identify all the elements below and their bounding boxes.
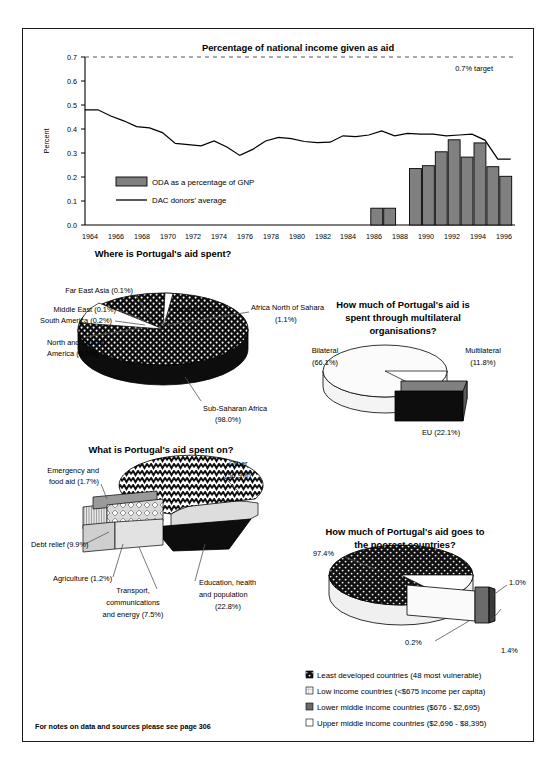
pie4-label-974: 97.4% [313,549,334,558]
pie3-label-other-1: Other [229,459,248,468]
pie2-title-line3: organisations? [369,325,436,336]
x-tick-1980: 1980 [289,232,305,241]
pie3-label-other-2: (56.9%) [225,471,251,480]
pie-poorest-countries: How much of Portugal's aid goes to the p… [313,526,526,655]
y-tick-marks [81,57,85,225]
legend-label-low-income: Low income countries (<$675 income per c… [317,687,486,696]
y-tick-0.2: 0.2 [67,173,77,182]
pie1-label-subsaharan-1: Sub-Saharan Africa [203,404,268,413]
line-chart-title: Percentage of national income given as a… [202,42,395,53]
bar-1996 [500,176,512,225]
pie4-graphic [329,545,495,625]
pie1-label-far-east: Far East Asia (0.1%) [65,286,133,295]
pie2-title-line1: How much of Portugal's aid is [336,299,470,310]
x-tick-1970: 1970 [160,232,176,241]
y-tick-0.6: 0.6 [67,77,77,86]
x-tick-1996: 1996 [496,232,512,241]
legend-label-upper-middle: Upper middle income countries ($2,696 - … [317,719,487,728]
legend-label-least-developed: Least developed countries (48 most vulne… [317,671,482,680]
legend-label-lower-middle: Lower middle income countries ($676 - $2… [317,703,480,712]
pie3-label-debt: Debt relief (9.9%) [31,540,89,549]
y-tick-0.3: 0.3 [67,149,77,158]
line-bar-chart: Percentage of national income given as a… [42,42,515,241]
infographic-canvas: Percentage of national income given as a… [23,29,535,743]
y-tick-0.1: 0.1 [67,197,77,206]
bar-1991 [435,152,447,225]
pie1-label-europe: Europe (0.4%) [173,305,221,314]
legend-swatch-least-developed [306,671,313,678]
bar-1995 [487,167,499,225]
y-tick-labels: 0.7 0.6 0.5 0.4 0.3 0.2 0.1 0.0 [67,53,77,230]
pie1-label-north-central-2: America (0.2%) [47,349,98,358]
pie3-slice-agriculture [115,519,163,549]
pie2-label-bilateral-1: Bilateral [312,346,339,355]
bar-1992 [448,140,460,225]
x-tick-labels: 1964 1966 1968 1970 1972 1974 1976 1978 … [82,232,512,241]
oda-bars [371,140,512,225]
legend-swatch-low-income [306,687,313,694]
legend-label-line: DAC donors' average [152,196,226,205]
pie3-label-emergency-1: Emergency and [47,466,99,475]
pie2-label-multilateral-1: Multilateral [465,346,501,355]
x-tick-1988: 1988 [392,232,408,241]
pie1-label-africa-north-1: Africa North of Sahara [251,303,325,312]
pie1-label-africa-north-2: (1.1%) [275,315,297,324]
pie3-label-education-1: Education, health [199,578,256,587]
pie3-label-education-2: and population [199,590,248,599]
pie1-label-middle-east: Middle East (0.1%) [54,305,116,314]
pie4-slice-upper-middle [407,585,475,621]
x-tick-1974: 1974 [211,232,227,241]
pie3-slice-education [153,519,251,551]
x-tick-1986: 1986 [366,232,382,241]
x-tick-1990: 1990 [418,232,434,241]
x-tick-1966: 1966 [108,232,124,241]
pie1-label-subsaharan-2: (98.0%) [215,415,241,424]
x-tick-1984: 1984 [340,232,356,241]
pie4-title-line1: How much of Portugal's aid goes to [325,526,484,537]
bar-1993 [461,157,473,225]
x-tick-1968: 1968 [134,232,150,241]
pie-where-aid-spent: Where is Portugal's aid spent? Far East … [40,248,325,424]
pie4-slice-lower-middle [475,587,489,623]
pie3-label-education-3: (22.8%) [215,602,241,611]
x-tick-1994: 1994 [470,232,486,241]
y-tick-0.0: 0.0 [67,221,77,230]
pie-aid-spent-on: What is Portugal's aid spent on? [31,444,263,619]
pie3-label-transport-2: communications [106,598,160,607]
pie2-slice-eu [395,391,463,421]
pie2-label-multilateral-2: (11.8%) [470,358,495,367]
target-annotation: 0.7% target [455,64,493,73]
legend-swatch-lower-middle [306,703,313,710]
pie2-graphic [323,345,467,421]
pie1-label-north-central-1: North and Central [47,338,106,347]
bar-1986 [371,208,383,225]
line-chart-legend: ODA as a percentage of GNP DAC donors' a… [116,177,254,205]
pie3-title: What is Portugal's aid spent on? [89,444,234,455]
report-page: Percentage of national income given as a… [22,28,534,742]
pie4-label-02: 0.2% [405,638,422,647]
pie2-label-bilateral-2: (66.1%) [312,358,338,367]
pie4-label-14: 1.4% [501,646,518,655]
bar-1990 [422,166,434,225]
pie2-title-line2: spent through multilateral [345,312,461,323]
footer-note: For notes on data and sources please see… [35,722,211,731]
x-tick-1978: 1978 [263,232,279,241]
pie3-label-transport-1: Transport, [116,586,149,595]
x-tick-1972: 1972 [185,232,201,241]
pie2-label-eu: EU (22.1%) [422,428,460,437]
legend-label-bars: ODA as a percentage of GNP [152,178,254,187]
pie1-label-south-america: South America (0.2%) [40,316,112,325]
y-tick-0.5: 0.5 [67,101,77,110]
x-tick-1976: 1976 [237,232,253,241]
y-tick-0.7: 0.7 [67,53,77,62]
pie3-label-emergency-2: food aid (1.7%) [49,477,99,486]
x-tick-1992: 1992 [444,232,460,241]
income-group-legend: Least developed countries (48 most vulne… [306,671,487,728]
pie3-graphic [83,455,263,552]
pie-multilateral: How much of Portugal's aid is spent thro… [312,299,502,437]
pie3-label-transport-3: and energy (7.5%) [103,610,164,619]
y-tick-0.4: 0.4 [67,125,77,134]
pie3-label-agriculture: Agriculture (1.2%) [53,574,112,583]
legend-swatch-bars [116,177,147,186]
pie4-label-10: 1.0% [509,578,526,587]
